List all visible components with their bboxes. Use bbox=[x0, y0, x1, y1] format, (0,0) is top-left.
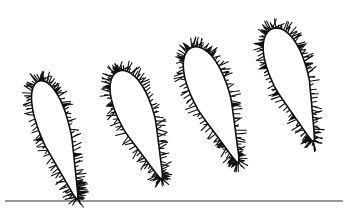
figure-canvas bbox=[0, 0, 345, 212]
leaf-1 bbox=[23, 71, 89, 207]
hairy-leaf-group bbox=[23, 19, 325, 207]
leaf-3 bbox=[174, 37, 248, 172]
leaf-2 bbox=[100, 61, 171, 187]
leaf-4 bbox=[252, 19, 324, 152]
